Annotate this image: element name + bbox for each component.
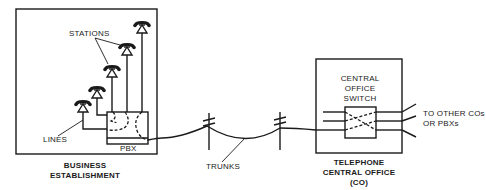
- switch-label-1: CENTRAL: [341, 74, 380, 83]
- other-cos-label-2: OR PBXs: [423, 119, 459, 128]
- co-label-3: (CO): [350, 178, 368, 187]
- pbx-internal-path-3: [136, 112, 148, 140]
- pbx-label: PBX: [120, 144, 137, 153]
- business-label-1: BUSINESS: [64, 161, 107, 170]
- telephone-network-diagram: PBX STATIONS LIN: [0, 0, 486, 190]
- utility-pole-icon: [203, 113, 215, 150]
- switch-path-1: [345, 112, 376, 130]
- telephone-icon: [74, 100, 92, 112]
- pbx-internal-path-1: [111, 112, 116, 122]
- lines-label: LINES: [43, 135, 67, 144]
- trunks-label: TRUNKS: [206, 162, 240, 171]
- switch-path-2: [345, 112, 376, 121]
- stations-label: STATIONS: [69, 29, 109, 38]
- co-label-1: TELEPHONE: [334, 158, 385, 167]
- business-label-2: ESTABLISHMENT: [50, 171, 120, 180]
- line-2: [97, 98, 107, 115]
- switch-label-2: OFFICE: [345, 84, 376, 93]
- co-label-2: CENTRAL OFFICE: [323, 168, 396, 177]
- business-establishment: PBX STATIONS LIN: [16, 9, 157, 180]
- telephone-icon: [133, 21, 151, 33]
- stations-leader-2: [95, 38, 108, 64]
- other-cos-label-1: TO OTHER COs: [423, 109, 485, 118]
- telephone-central-office: CENTRAL OFFICE SWITCH TELEPHONE CENTRAL …: [316, 59, 402, 187]
- telephone-icon: [118, 43, 136, 55]
- telephone-icon: [88, 86, 106, 98]
- lines-leader: [58, 120, 83, 136]
- trunks-leader: [222, 138, 245, 162]
- switch-path-3: [345, 121, 376, 130]
- telephone-icon: [103, 65, 121, 77]
- pbx: PBX: [107, 112, 148, 153]
- central-office-switch: [316, 107, 402, 138]
- stations-leader-1: [95, 38, 120, 45]
- outgoing-connections: TO OTHER COs OR PBXs: [402, 104, 485, 137]
- trunk-cable: [148, 126, 316, 140]
- trunks: TRUNKS: [148, 112, 316, 171]
- switch-label-3: SWITCH: [344, 94, 377, 103]
